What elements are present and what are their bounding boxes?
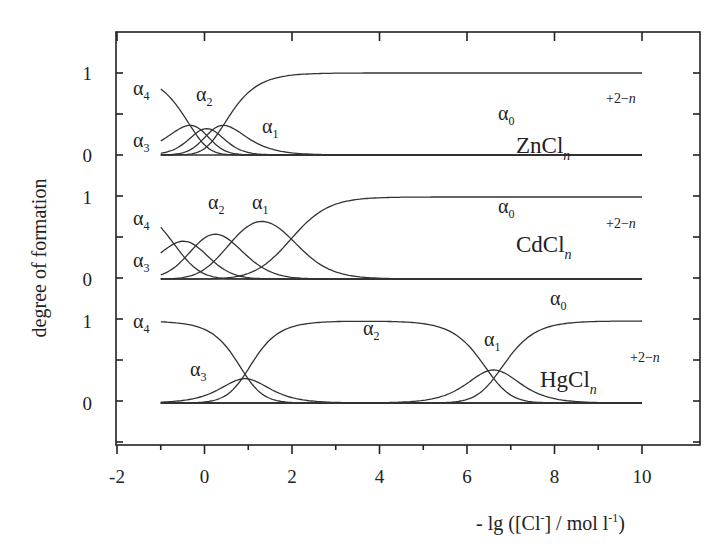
x-axis-title: - lg ([Cl-] / mol l-1) xyxy=(476,511,625,535)
series-label-alpha0: α0 xyxy=(550,287,566,313)
y-tick-label: 1 xyxy=(83,311,93,332)
y-tick-label: 1 xyxy=(83,63,93,84)
speciation-chart: -2024681010α0α1α2α3α4ZnCln+2−n10α0α1α2α3… xyxy=(0,0,712,558)
x-tick-label: 8 xyxy=(550,466,560,487)
species-charge: +2−n xyxy=(606,91,636,106)
x-tick-label: -2 xyxy=(109,466,125,487)
series-label-alpha4: α4 xyxy=(133,310,149,336)
series-label-alpha0: α0 xyxy=(498,102,514,128)
series-label-alpha2: α2 xyxy=(208,191,224,217)
series-label-alpha1: α1 xyxy=(484,328,500,354)
x-tick-label: 4 xyxy=(375,466,385,487)
series-label-alpha4: α4 xyxy=(133,207,149,233)
curve-alpha0 xyxy=(161,73,642,155)
species-label: HgCln xyxy=(540,367,597,397)
x-tick-label: 6 xyxy=(462,466,472,487)
species-label: CdCln xyxy=(516,232,572,262)
curve-alpha4 xyxy=(161,89,642,155)
series-label-alpha3: α3 xyxy=(190,358,206,384)
curves-layer xyxy=(161,73,642,403)
species-label: ZnCln xyxy=(516,133,570,163)
curve-alpha0 xyxy=(161,197,642,279)
y-tick-label: 1 xyxy=(83,187,93,208)
series-label-alpha2: α2 xyxy=(196,83,212,109)
series-label-alpha3: α3 xyxy=(133,249,149,275)
series-label-alpha0: α0 xyxy=(498,195,514,221)
y-axis-title: degree of formation xyxy=(28,179,51,338)
species-charge: +2−n xyxy=(630,350,660,365)
series-label-alpha1: α1 xyxy=(262,115,278,141)
y-tick-label: 0 xyxy=(83,269,93,290)
series-label-alpha1: α1 xyxy=(252,191,268,217)
species-charge: +2−n xyxy=(606,216,636,231)
series-label-alpha3: α3 xyxy=(133,129,149,155)
y-tick-label: 0 xyxy=(83,393,93,414)
y-tick-label: 0 xyxy=(83,145,93,166)
x-tick-label: 10 xyxy=(633,466,652,487)
x-tick-label: 0 xyxy=(200,466,210,487)
series-label-alpha4: α4 xyxy=(133,77,149,103)
x-tick-label: 2 xyxy=(287,466,297,487)
labels-layer: -2024681010α0α1α2α3α4ZnCln+2−n10α0α1α2α3… xyxy=(83,63,660,487)
